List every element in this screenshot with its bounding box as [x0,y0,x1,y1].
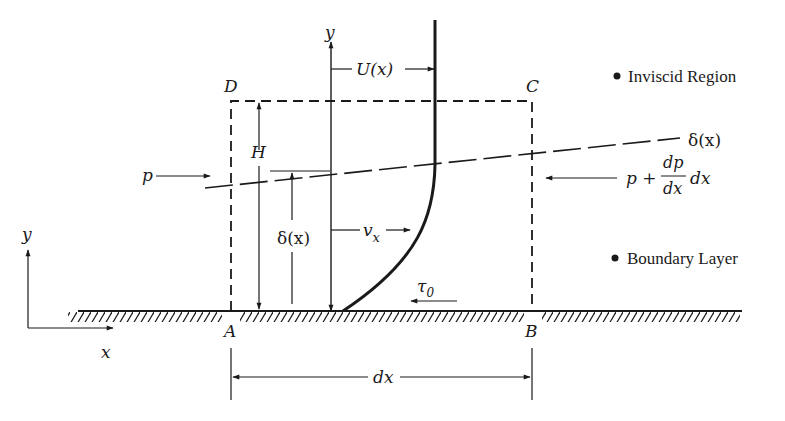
p-right-label-den: dx [663,179,682,198]
corner-label-d: D [223,76,238,96]
p-right-label-p: p + [626,168,657,188]
boundary-layer-diagram: D C A B y U(x) δ(x) H δ(x) vx τ0 p p + d… [0,0,785,421]
p-right-label-dx: dx [690,168,711,188]
wall [68,311,742,323]
legend-bullet-inviscid [614,73,621,80]
legend-bullet-boundary [612,255,619,262]
boundary-layer-edge-line [205,138,680,188]
delta-line-label: δ(x) [688,130,721,150]
legend-inviscid-region: Inviscid Region [628,67,737,86]
delta-dim-label: δ(x) [277,228,310,248]
corner-label-c: C [526,76,539,96]
u-label: U(x) [356,59,393,79]
h-label: H [250,142,267,162]
p-right-label-num: dp [663,153,683,172]
coord-y-label: y [21,224,32,244]
legend-boundary-layer: Boundary Layer [627,249,738,268]
y-axis-center-label: y [324,22,335,42]
dx-label: dx [373,367,394,387]
tau-label: τ0 [417,276,434,300]
coord-x-label: x [101,342,111,362]
vx-label: vx [363,220,381,245]
corner-label-b: B [524,321,538,341]
corner-label-a: A [222,321,236,341]
p-left-label: p [142,165,153,185]
